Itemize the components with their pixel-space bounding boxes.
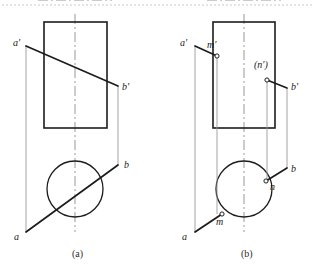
panel-a: [26, 0, 118, 232]
point-label-m: m: [216, 217, 223, 227]
caption-panel-b: (b): [241, 249, 253, 259]
drawing-root: a'b'ba a'm'(n')b'bnma (a) (b): [0, 0, 314, 269]
point-label-b: b: [291, 164, 296, 174]
point-label-b: b: [124, 160, 129, 170]
point-label-a-prime: a': [180, 38, 187, 48]
point-label-n-prime-hidden: (n'): [254, 60, 268, 70]
intersection-point-markers: [215, 54, 269, 216]
point-label-a-prime: a': [13, 38, 20, 48]
marker-n-prime: [265, 78, 269, 82]
marker-m-prime: [215, 54, 219, 58]
line-ab-top-projection: [26, 165, 118, 232]
point-label-a: a: [182, 232, 187, 242]
marker-n: [264, 179, 268, 183]
point-label-b-prime: b': [291, 82, 298, 92]
point-label-a: a: [14, 232, 19, 242]
technical-drawing-canvas: [0, 0, 314, 269]
segment-b-to-n: [266, 168, 287, 181]
caption-panel-a: (a): [72, 249, 83, 259]
segment-n-prime-to-b-prime: [267, 80, 287, 88]
panel-b: [195, 0, 287, 232]
line-ab-front-projection: [26, 46, 118, 86]
front-view-rectangle: [44, 22, 107, 128]
point-label-b-prime: b': [122, 82, 129, 92]
point-label-n: n: [270, 182, 275, 192]
point-label-m-prime: m': [207, 40, 216, 50]
